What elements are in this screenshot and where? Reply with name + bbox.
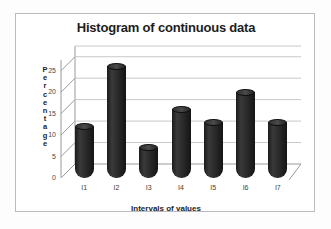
bar-top-ellipse [268, 119, 287, 126]
bar-cylinder [75, 127, 94, 178]
x-axis-tick-label: I7 [267, 184, 289, 191]
y-axis-tick-label: 25 [42, 67, 56, 74]
bar-cylinder [172, 109, 191, 178]
x-axis-title: Intervals of values [16, 204, 316, 213]
x-axis-tick-label: I1 [73, 184, 95, 191]
bar-cylinder [204, 122, 223, 178]
x-axis-tick-label: I5 [202, 184, 224, 191]
bar-top-ellipse [236, 89, 255, 96]
bar-top-ellipse [172, 106, 191, 113]
y-axis-title-letter: e [40, 140, 50, 148]
x-axis-tick-label: I6 [235, 184, 257, 191]
x-axis-tick-label: I3 [138, 184, 160, 191]
y-axis-tick-label: 15 [42, 110, 56, 117]
bar-body [107, 66, 126, 178]
bar-cylinder [268, 122, 287, 178]
bar-top-ellipse [107, 63, 126, 70]
bar-body [236, 92, 255, 178]
chart-title: Histogram of continuous data [16, 20, 316, 35]
y-axis-tick-label: 20 [42, 88, 56, 95]
bar-body [172, 109, 191, 178]
x-axis-tick-label: I2 [105, 184, 127, 191]
bar-top-ellipse [204, 119, 223, 126]
bar-cylinder [139, 148, 158, 178]
y-axis-tick-label: 5 [42, 153, 56, 160]
x-axis-tick-label: I4 [170, 184, 192, 191]
y-axis-tick-label: 10 [42, 131, 56, 138]
bar-cylinder [107, 66, 126, 178]
bar-body [268, 122, 287, 178]
bar-body [204, 122, 223, 178]
bar-top-ellipse [75, 123, 94, 130]
bar-cylinder [236, 92, 255, 178]
bar-body [75, 127, 94, 178]
chart-frame: Histogram of continuous data P e r c e n… [15, 13, 315, 212]
bar-body [139, 148, 158, 178]
y-axis-tick-label: 0 [42, 174, 56, 181]
plot-area: 0510152025 I1I2I3I4I5I6I7 [61, 60, 301, 192]
